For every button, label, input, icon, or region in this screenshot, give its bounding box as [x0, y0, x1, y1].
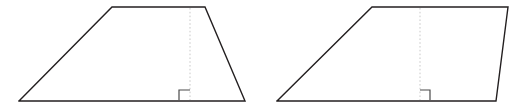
canvas-background — [0, 0, 520, 109]
geometry-figure-canvas — [0, 0, 520, 109]
